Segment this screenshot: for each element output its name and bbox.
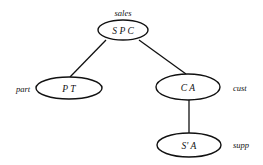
node-supp: S' Asupp (157, 133, 249, 157)
node-label-part: part (15, 84, 31, 94)
tree-diagram: S P CsalesP TpartC AcustS' Asupp (0, 0, 263, 165)
node-attributes-cust: C A (181, 83, 196, 93)
edge-sales-cust (139, 40, 186, 74)
node-attributes-part: P T (61, 84, 76, 94)
node-label-supp: supp (233, 140, 249, 150)
node-sales: S P Csales (98, 8, 148, 40)
node-label-sales: sales (115, 8, 133, 18)
node-cust: C Acust (156, 74, 247, 100)
node-attributes-supp: S' A (182, 141, 197, 151)
nodes: S P CsalesP TpartC AcustS' Asupp (15, 8, 249, 157)
edge-sales-part (70, 40, 106, 77)
node-label-cust: cust (233, 83, 247, 93)
node-attributes-sales: S P C (112, 26, 134, 36)
node-part: P Tpart (15, 77, 102, 99)
